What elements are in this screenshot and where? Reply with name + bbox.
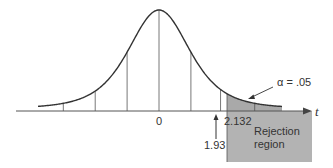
t-distribution-chart: t 0 2.132 1.93 Rejection region α = .05 (0, 0, 333, 168)
axis-label-t: t (315, 104, 319, 119)
density-curve (38, 10, 282, 106)
tick-label-critical: 2.132 (224, 115, 252, 127)
observed-arrow-icon (214, 114, 219, 120)
rejection-region-label: Rejection (254, 125, 300, 137)
rejection-label-line1: Rejection (254, 125, 300, 137)
vertical-guide-lines (63, 10, 254, 162)
rejection-region-label-2: region (254, 138, 285, 150)
tick-label-zero: 0 (156, 115, 162, 127)
alpha-label: α = .05 (277, 76, 311, 88)
alpha-pointer-arrow-icon (248, 95, 255, 100)
rejection-label-line2: region (254, 138, 285, 150)
alpha-pointer-line (252, 87, 273, 97)
observed-value-label: 1.93 (204, 139, 225, 151)
